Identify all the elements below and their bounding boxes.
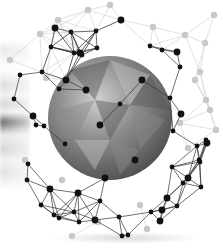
polygon-globe (48, 56, 172, 180)
network-sphere-graphic (0, 0, 223, 249)
